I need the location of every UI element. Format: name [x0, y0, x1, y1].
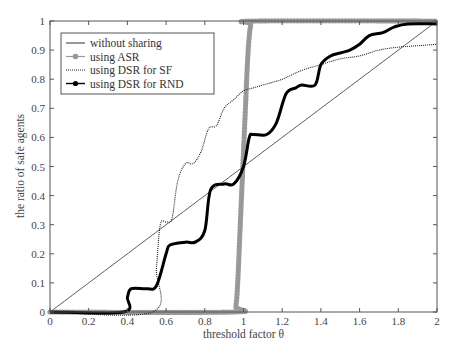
x-tick-label: 0.4 [121, 315, 135, 327]
chart-canvas: 00.20.40.60.811.21.41.61.8200.10.20.30.4… [0, 0, 458, 355]
x-tick-label: 1.8 [391, 315, 405, 327]
x-tick-label: 0.6 [159, 315, 173, 327]
y-tick-label: 0 [40, 306, 46, 318]
legend: without sharingusing ASRusing DSR for SF… [61, 33, 214, 94]
y-tick-label: 0.4 [31, 190, 45, 202]
y-tick-label: 0.6 [31, 131, 45, 143]
y-axis-label: the ratio of safe agents [14, 113, 27, 218]
y-tick-label: 0.8 [31, 73, 45, 85]
y-tick-label: 0.5 [31, 161, 45, 173]
y-tick-label: 0.7 [31, 102, 45, 114]
x-axis-label: threshold factor θ [203, 328, 284, 340]
y-tick-label: 0.9 [31, 44, 45, 56]
y-tick-label: 0.2 [31, 248, 45, 260]
x-tick-label: 1.6 [353, 315, 367, 327]
legend-label: without sharing [90, 37, 162, 50]
x-tick-label: 1 [241, 315, 247, 327]
legend-label: using ASR [90, 51, 140, 64]
legend-label: using DSR for SF [90, 64, 172, 77]
x-tick-label: 1.2 [275, 315, 289, 327]
x-tick-label: 1.4 [314, 315, 328, 327]
x-tick-label: 0 [47, 315, 53, 327]
y-tick-label: 1 [40, 15, 46, 27]
x-tick-label: 0.2 [82, 315, 96, 327]
y-tick-label: 0.1 [31, 277, 45, 289]
x-tick-label: 0.8 [198, 315, 212, 327]
legend-label: using DSR for RND [90, 78, 184, 91]
x-tick-label: 2 [434, 315, 440, 327]
y-tick-label: 0.3 [31, 219, 45, 231]
